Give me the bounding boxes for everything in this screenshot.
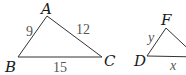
vertex-c-label: C	[104, 52, 116, 70]
triangle-abc: A B C 9 12 15	[4, 0, 116, 75]
triangle-def: F D y x	[133, 11, 186, 73]
side-de-label: x	[169, 58, 177, 73]
vertex-f-label: F	[160, 11, 172, 29]
vertex-b-label: B	[4, 58, 16, 75]
side-ab-label: 9	[26, 24, 33, 39]
vertex-a-label: A	[39, 0, 52, 18]
similar-triangles-diagram: A B C 9 12 15 F D y x	[0, 0, 186, 75]
vertex-d-label: D	[133, 52, 146, 70]
side-ac-label: 12	[76, 22, 90, 37]
side-bc-label: 15	[53, 60, 67, 75]
side-df-label: y	[146, 30, 155, 45]
